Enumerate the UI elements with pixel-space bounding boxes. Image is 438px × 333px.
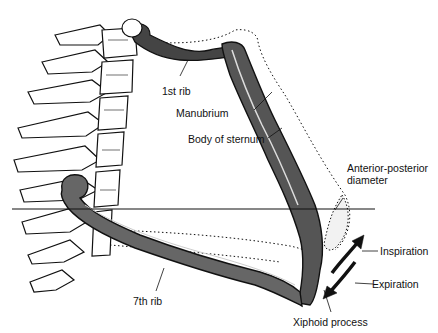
label-first-rib: 1st rib (162, 86, 191, 97)
label-body-of-sternum: Body of sternum (188, 134, 264, 145)
label-inspiration: Inspiration (380, 246, 428, 257)
inspiration-bulge (324, 195, 348, 250)
label-expiration: Expiration (372, 279, 419, 290)
expiration-arrow-icon (323, 262, 355, 299)
thoracic-cage-diagram: 1st rib Manubrium Body of sternum Anteri… (0, 0, 438, 333)
label-seventh-rib: 7th rib (133, 296, 162, 307)
vertebral-column (14, 25, 137, 292)
label-ap-diameter-line2: diameter (347, 175, 388, 186)
label-manubrium: Manubrium (176, 108, 229, 119)
first-rib (122, 19, 236, 61)
label-ap-diameter-line1: Anterior-posterior (347, 163, 428, 174)
label-xiphoid-process: Xiphoid process (293, 317, 368, 328)
